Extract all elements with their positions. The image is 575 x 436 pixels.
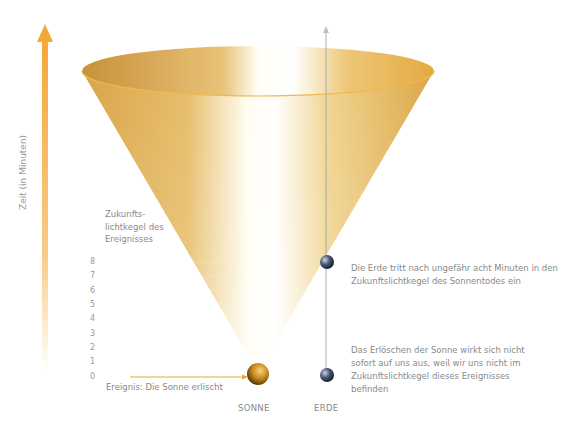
sun-ball xyxy=(247,363,269,385)
tick-6: 6 xyxy=(90,286,100,295)
tick-2: 2 xyxy=(90,343,100,352)
cone-label: Zukunfts- lichtkegel des Ereignisses xyxy=(105,208,195,246)
earth-label: ERDE xyxy=(314,403,338,413)
event-arrow xyxy=(130,375,248,380)
tick-8: 8 xyxy=(90,257,100,266)
earth-ball-event-time xyxy=(320,368,334,382)
tick-0: 0 xyxy=(90,372,100,381)
tick-7: 7 xyxy=(90,271,100,280)
time-axis-label: Zeit (in Minuten) xyxy=(18,70,28,210)
tick-3: 3 xyxy=(90,329,100,338)
tick-4: 4 xyxy=(90,314,100,323)
earth-ball-entering-cone xyxy=(320,255,334,269)
sun-label: SONNE xyxy=(238,403,270,413)
tick-1: 1 xyxy=(90,357,100,366)
note-delay-explanation: Das Erlöschen der Sonne wirkt sich nicht… xyxy=(351,344,531,396)
time-axis-arrow xyxy=(37,24,53,370)
event-label: Ereignis: Die Sonne erlischt xyxy=(106,382,223,392)
note-earth-enters-cone: Die Erde tritt nach ungefähr acht Minute… xyxy=(351,262,566,288)
tick-5: 5 xyxy=(90,300,100,309)
